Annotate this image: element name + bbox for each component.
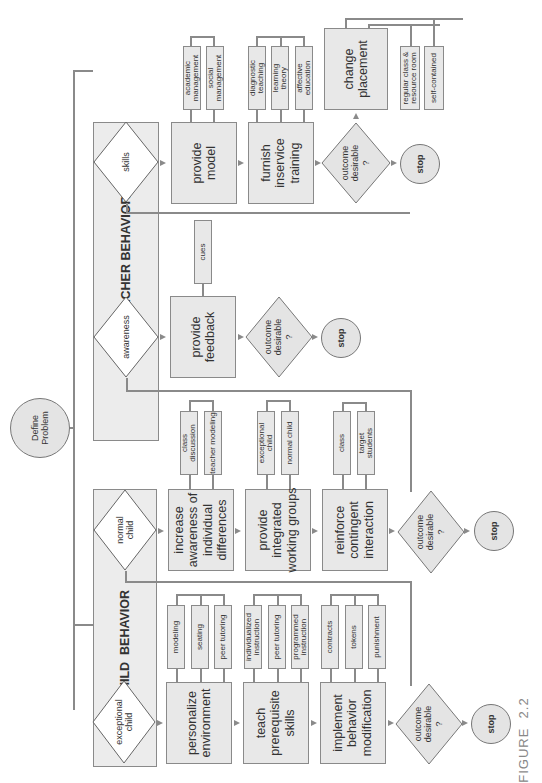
option-learning-theory: learning theory: [271, 46, 289, 110]
arrow-icon: [238, 160, 244, 166]
arrow-icon: [234, 720, 240, 726]
arrow-icon: [312, 334, 318, 340]
arrow-icon: [464, 528, 470, 534]
figure-caption: FIGURE 2.2: [514, 700, 534, 780]
step-provide-model: provide model: [171, 122, 237, 204]
option-peer-tutoring: peer tutoring: [214, 605, 232, 669]
arrow-icon: [312, 528, 318, 534]
arrow-icon: [235, 528, 241, 534]
option-tokens: tokens: [345, 605, 363, 669]
option-diagnostic-teaching: diagnostic teaching: [248, 46, 266, 110]
arrow-icon: [388, 720, 394, 726]
option-target-students: target students: [357, 411, 375, 475]
exceptional-stop-node: stop: [471, 704, 511, 744]
normal-child-label: normal child: [94, 490, 156, 570]
option-normal-child: normal child: [281, 411, 299, 475]
skills-stop-node: stop: [400, 144, 440, 184]
option-individualized-instruction: individualized instruction: [244, 605, 262, 669]
arrow-icon: [389, 528, 395, 534]
option-modeling: modeling: [167, 605, 185, 669]
step-personalize-environment: personalize environment: [166, 682, 232, 764]
step-implement-behavior-modification: implement behavior modification: [320, 682, 386, 764]
arrow-icon: [158, 528, 164, 534]
option-academic-management: academic management: [183, 46, 201, 110]
skills-outcome-label: outcome desirable ?: [322, 123, 390, 203]
normal-stop-node: stop: [474, 511, 514, 551]
arrow-icon: [311, 720, 317, 726]
option-cues: cues: [194, 220, 212, 284]
step-provide-feedback: provide feedback: [170, 296, 236, 378]
step-increase-awareness: increase awareness of individual differe…: [168, 489, 234, 571]
option-programmed-instruction: programmed instruction: [291, 605, 309, 669]
exceptional-child-label: exceptional child: [93, 681, 155, 763]
option-seating: seating: [191, 605, 209, 669]
branch-line-child: [73, 624, 93, 626]
arrow-icon: [391, 160, 397, 166]
step-furnish-inservice-training: furnish inservice training: [248, 122, 314, 204]
option-contracts: contracts: [321, 605, 339, 669]
option-teacher-modeling: teacher modeling: [204, 411, 222, 475]
arrow-icon: [160, 334, 166, 340]
option-social-management: social management: [206, 46, 224, 110]
arrow-icon: [160, 160, 166, 166]
option-peer-tutoring-2: peer tutoring: [268, 605, 286, 669]
arrow-icon: [315, 160, 321, 166]
step-reinforce-contingent-interaction: reinforce contingent interaction: [322, 489, 388, 571]
define-problem-node: Define Problem: [10, 398, 70, 458]
exceptional-outcome-label: outcome desirable ?: [396, 684, 462, 764]
define-problem-label: Define Problem: [30, 411, 51, 445]
step-teach-prerequisite-skills: teach prerequisite skills: [243, 682, 309, 764]
option-class-discussion: class discussion: [180, 411, 198, 475]
arrow-icon: [462, 720, 468, 726]
arrow-icon: [157, 720, 163, 726]
arrow-icon: [353, 113, 359, 119]
awareness-label: awareness: [94, 297, 158, 377]
awareness-outcome-label: outcome desirable ?: [246, 297, 312, 377]
awareness-stop-node: stop: [321, 318, 361, 358]
normal-outcome-label: outcome desirable ?: [398, 491, 464, 573]
alt-change-placement: change placement: [324, 28, 388, 110]
skills-label: skills: [94, 122, 158, 202]
arrow-icon: [238, 334, 244, 340]
option-punishment: punishment: [368, 605, 386, 669]
option-regular-class-resource-room: regular class & resource room: [400, 46, 420, 110]
branch-line-teacher: [73, 70, 93, 72]
step-provide-integrated-working-groups: provide integrated working groups: [245, 489, 311, 571]
option-self-contained: self-contained: [424, 46, 444, 110]
option-exceptional-child: exceptional child: [257, 411, 275, 475]
trunk-line: [73, 70, 75, 710]
option-class: class: [333, 411, 351, 475]
option-affective-education: affective education: [295, 46, 313, 110]
